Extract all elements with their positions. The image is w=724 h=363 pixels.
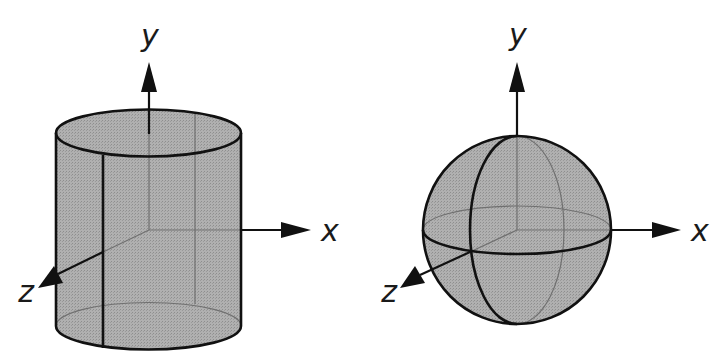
sphere-y-axis: y bbox=[508, 17, 528, 136]
cylinder-y-label: y bbox=[140, 18, 160, 53]
sphere-figure: y x z bbox=[380, 17, 709, 324]
x-arrow-icon bbox=[281, 222, 311, 238]
y-arrow-icon bbox=[509, 62, 525, 92]
x-arrow-icon bbox=[652, 222, 681, 238]
sphere-z-label: z bbox=[380, 274, 398, 309]
diagram-canvas: y x z bbox=[0, 0, 724, 363]
cylinder-x-axis: x bbox=[241, 213, 339, 248]
sphere-x-axis: x bbox=[611, 213, 709, 248]
y-arrow-icon bbox=[141, 62, 157, 92]
cylinder-x-label: x bbox=[320, 213, 339, 248]
cylinder-z-label: z bbox=[17, 274, 35, 309]
sphere-x-label: x bbox=[690, 213, 709, 248]
cylinder-figure: y x z bbox=[17, 18, 339, 350]
sphere-y-label: y bbox=[508, 17, 528, 52]
z-arrow-icon bbox=[400, 266, 425, 288]
